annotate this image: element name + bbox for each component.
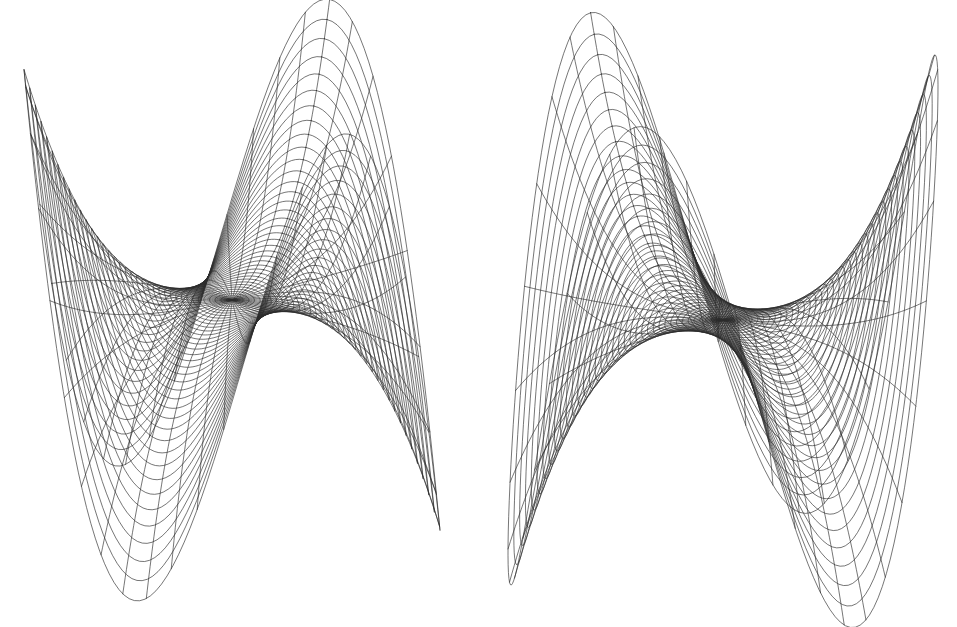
monkey-saddle-plot-right bbox=[478, 0, 957, 627]
mesh-line bbox=[26, 87, 232, 300]
mesh-line bbox=[26, 85, 232, 301]
mesh-line bbox=[723, 320, 795, 528]
mesh-line bbox=[126, 286, 232, 464]
mesh-line bbox=[232, 12, 305, 300]
mesh-line bbox=[232, 129, 254, 300]
figure-root bbox=[0, 0, 957, 627]
mesh-line bbox=[723, 320, 885, 577]
mesh-line bbox=[723, 133, 918, 320]
mesh-line bbox=[523, 320, 723, 538]
mesh-group-left bbox=[24, 0, 440, 601]
mesh-line bbox=[24, 70, 232, 301]
mesh-line bbox=[723, 55, 934, 320]
wireframe-canvas-right bbox=[478, 0, 957, 627]
mesh-line bbox=[515, 320, 724, 578]
mesh-line bbox=[610, 154, 723, 331]
mesh-line bbox=[232, 300, 440, 527]
mesh-line bbox=[723, 121, 937, 321]
mesh-group-right bbox=[508, 13, 938, 627]
mesh-line bbox=[510, 319, 723, 482]
mesh-line bbox=[232, 300, 439, 526]
monkey-saddle-plot-left bbox=[0, 0, 478, 627]
mesh-line bbox=[723, 212, 904, 320]
mesh-line bbox=[723, 320, 844, 625]
wireframe-canvas-left bbox=[0, 0, 478, 627]
mesh-line bbox=[123, 300, 232, 594]
mesh-line bbox=[723, 70, 938, 320]
